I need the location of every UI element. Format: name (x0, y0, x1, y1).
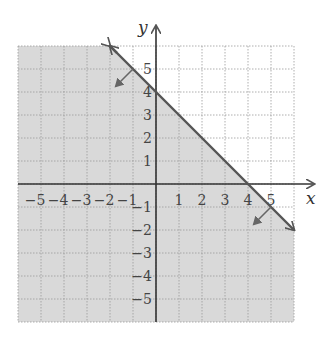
y-tick-label: 3 (143, 107, 152, 123)
y-tick-label: 1 (143, 153, 152, 169)
y-axis-label: y (137, 17, 148, 37)
y-tick-label: −3 (131, 245, 152, 261)
y-tick-label: −4 (131, 268, 152, 284)
x-tick-label: 4 (244, 192, 253, 208)
x-tick-label: 1 (175, 192, 184, 208)
x-tick-label: −5 (25, 192, 46, 208)
y-tick-label: −5 (131, 291, 152, 307)
y-tick-label: −1 (131, 199, 152, 215)
x-tick-label: −3 (71, 192, 92, 208)
y-tick-label: −2 (131, 222, 152, 238)
y-tick-label: 5 (143, 61, 152, 77)
y-tick-label: 2 (143, 130, 152, 146)
inequality-graph: −5−4−3−2−11234554321−1−2−3−4−5 x y (0, 0, 331, 343)
x-tick-label: 2 (198, 192, 207, 208)
x-tick-label: −4 (48, 192, 69, 208)
x-tick-label: −2 (94, 192, 115, 208)
x-axis-label: x (306, 188, 316, 208)
x-tick-label: 3 (221, 192, 230, 208)
